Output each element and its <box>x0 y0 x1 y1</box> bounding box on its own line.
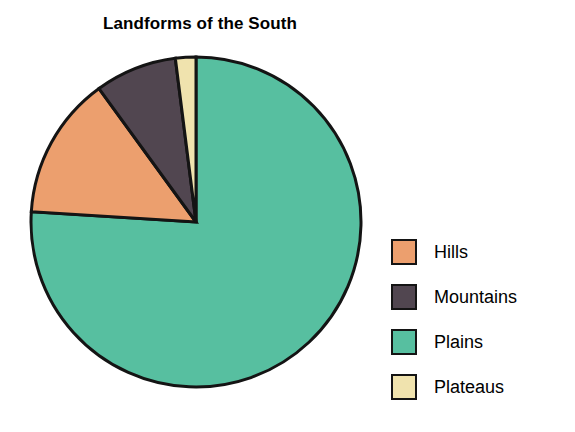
legend-swatch-mountains <box>391 284 417 310</box>
legend-label-plains: Plains <box>434 333 483 351</box>
pie-svg: PlainsHillsMountainsPlateaus <box>28 54 364 390</box>
legend-item-plateaus[interactable]: Plateaus <box>391 364 571 409</box>
pie-slices-group: PlainsHillsMountainsPlateaus <box>31 57 361 387</box>
legend-item-hills[interactable]: Hills <box>391 229 571 274</box>
pie-chart-figure: Landforms of the South PlainsHillsMounta… <box>0 0 575 432</box>
pie-plot-area: PlainsHillsMountainsPlateaus <box>28 54 364 390</box>
legend-label-hills: Hills <box>434 243 468 261</box>
legend-label-plateaus: Plateaus <box>434 378 504 396</box>
chart-legend: HillsMountainsPlainsPlateaus <box>391 229 571 409</box>
legend-item-plains[interactable]: Plains <box>391 319 571 364</box>
legend-swatch-hills <box>391 239 417 265</box>
legend-item-mountains[interactable]: Mountains <box>391 274 571 319</box>
chart-title: Landforms of the South <box>0 14 400 34</box>
legend-label-mountains: Mountains <box>434 288 517 306</box>
legend-swatch-plateaus <box>391 374 417 400</box>
legend-swatch-plains <box>391 329 417 355</box>
